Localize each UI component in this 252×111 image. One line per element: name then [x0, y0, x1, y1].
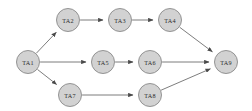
node-label-ta1: TA1 — [22, 59, 33, 66]
edge-ta8-to-ta9 — [161, 69, 210, 90]
node-ta1[interactable]: TA1 — [17, 51, 40, 74]
node-ta7[interactable]: TA7 — [59, 84, 82, 107]
edges-group — [36, 20, 212, 95]
edge-ta4-to-ta9 — [180, 27, 213, 52]
node-label-ta2: TA2 — [62, 17, 73, 24]
node-label-ta8: TA8 — [144, 92, 155, 99]
edge-ta1-to-ta2 — [36, 32, 56, 53]
node-label-ta5: TA5 — [97, 59, 108, 66]
node-label-ta3: TA3 — [114, 17, 125, 24]
node-ta5[interactable]: TA5 — [92, 51, 115, 74]
node-ta4[interactable]: TA4 — [159, 9, 182, 32]
edge-ta1-to-ta7 — [38, 69, 57, 84]
graph-canvas: TA1TA2TA3TA4TA5TA6TA7TA8TA9 — [0, 0, 252, 111]
node-ta2[interactable]: TA2 — [57, 9, 80, 32]
node-label-ta7: TA7 — [64, 92, 75, 99]
node-ta8[interactable]: TA8 — [139, 84, 162, 107]
nodes-group: TA1TA2TA3TA4TA5TA6TA7TA8TA9 — [17, 9, 238, 107]
node-ta6[interactable]: TA6 — [139, 51, 162, 74]
node-label-ta9: TA9 — [220, 59, 231, 66]
node-label-ta6: TA6 — [144, 59, 155, 66]
node-ta9[interactable]: TA9 — [215, 51, 238, 74]
task-network-diagram: TA1TA2TA3TA4TA5TA6TA7TA8TA9 — [0, 0, 252, 111]
node-ta3[interactable]: TA3 — [109, 9, 132, 32]
node-label-ta4: TA4 — [164, 17, 175, 24]
